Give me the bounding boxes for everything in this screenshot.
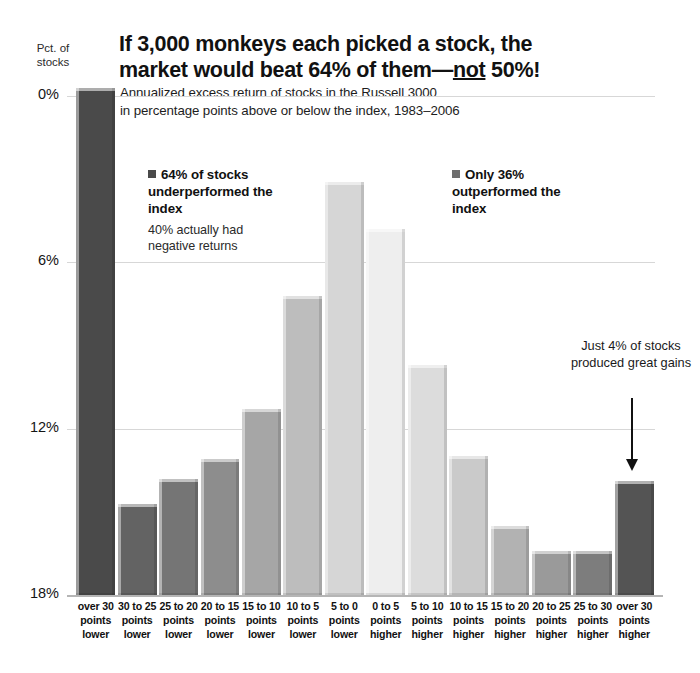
bar-bevel [615,481,618,595]
bar[interactable] [449,456,488,595]
bar-bevel [76,88,79,595]
x-axis-tick-line: higher [489,628,530,642]
bar-bevel [159,479,198,482]
axis-baseline [67,595,663,597]
x-axis-tick-line: points [448,614,489,628]
bar-bevel [118,593,157,595]
x-axis-tick-line: lower [199,628,240,642]
bar-bevel [242,409,245,595]
bar-series [75,60,655,595]
x-axis-tick-line: higher [406,628,447,642]
x-axis-tick-label: 10 to 15pointshigher [448,600,489,642]
x-axis-tick-label: 30 to 25pointslower [116,600,157,642]
bar-bevel [615,481,654,484]
bar[interactable] [201,459,240,595]
x-axis-tick-label: 25 to 30pointshigher [572,600,613,642]
bar-bevel [568,551,571,595]
bar-bevel [366,593,405,595]
bar[interactable] [366,229,405,595]
bar[interactable] [532,551,571,595]
annotation-underperformed-title: 64% of stocks underperformed the index [148,166,278,217]
x-axis-tick-line: 20 to 15 [199,600,240,614]
bar[interactable] [408,365,447,595]
legend-swatch-underperformed [148,170,156,178]
bar[interactable] [491,526,530,595]
y-axis-caption-line1: Pct. of [22,41,84,55]
bar-bevel [366,229,369,595]
x-axis-tick-line: 15 to 10 [241,600,282,614]
bar[interactable] [118,504,157,595]
bar-bevel [449,593,488,595]
x-axis-tick-line: points [199,614,240,628]
x-axis-tick-line: higher [448,628,489,642]
bar-bevel [76,593,115,595]
x-axis-tick-line: 0 to 5 [365,600,406,614]
bar-bevel [325,182,328,595]
bar[interactable] [573,551,612,595]
bar-bevel [526,526,529,595]
bar[interactable] [615,481,654,595]
bar-bevel [485,456,488,595]
down-arrow-icon [631,398,633,460]
bar[interactable] [76,88,115,595]
x-axis-tick-label: over 30pointslower [75,600,116,642]
x-axis-tick-line: lower [75,628,116,642]
bar-bevel [491,526,494,595]
bar-bevel [449,456,488,459]
bar-bevel [491,526,530,529]
x-axis-tick-line: points [531,614,572,628]
bar-bevel [278,409,281,595]
bar-bevel [154,504,157,595]
bar[interactable] [325,182,364,595]
x-axis-tick-line: 15 to 20 [489,600,530,614]
y-axis-tick-label: 0% [9,86,59,102]
bar-bevel [532,551,535,595]
bar-bevel [201,459,204,595]
bar[interactable] [242,409,281,595]
bar-bevel [408,593,447,595]
x-axis-tick-label: 5 to 0pointslower [324,600,365,642]
x-axis-tick-line: points [241,614,282,628]
bar-bevel [573,551,576,595]
bar-bevel [242,593,281,595]
x-axis-tick-label: over 30pointshigher [614,600,655,642]
x-axis-tick-line: higher [531,628,572,642]
bar-bevel [444,365,447,595]
x-axis-tick-line: 5 to 0 [324,600,365,614]
bar-bevel [366,229,405,232]
x-axis-tick-line: points [324,614,365,628]
x-axis-tick-line: over 30 [75,600,116,614]
x-axis-tick-line: points [406,614,447,628]
bar-bevel [573,551,612,554]
x-axis-tick-line: over 30 [614,600,655,614]
bar[interactable] [159,479,198,595]
bar-bevel [573,593,612,595]
x-axis-tick-label: 15 to 10pointslower [241,600,282,642]
annotation-underperformed-text: 64% of stocks underperformed the index [148,167,273,216]
bar[interactable] [283,296,322,595]
x-axis-tick-label: 25 to 20pointslower [158,600,199,642]
bar-bevel [615,593,654,595]
x-axis-tick-label: 0 to 5pointshigher [365,600,406,642]
bar-bevel [609,551,612,595]
bar-bevel [361,182,364,595]
annotation-outperformed: Only 36% outperformed the index [452,166,574,217]
bar-bevel [195,479,198,595]
x-axis-tick-label: 5 to 10pointshigher [406,600,447,642]
x-axis-tick-label: 15 to 20pointshigher [489,600,530,642]
annotation-great-gains: Just 4% of stocks produced great gains [570,338,692,372]
bar-bevel [532,551,571,554]
y-axis-tick-label: 12% [9,419,59,435]
bar-bevel [408,365,447,368]
x-axis-labels: over 30pointslower30 to 25pointslower25 … [75,600,655,660]
bar-bevel [159,593,198,595]
annotation-negative-returns: 40% actually had negative returns [148,222,278,255]
y-axis-tick-label: 6% [9,252,59,268]
bar-bevel [76,88,115,91]
x-axis-tick-line: higher [614,628,655,642]
x-axis-tick-line: lower [324,628,365,642]
bar-bevel [159,479,162,595]
bar-bevel [325,593,364,595]
bar-bevel [283,296,286,595]
legend-swatch-outperformed [452,170,460,178]
